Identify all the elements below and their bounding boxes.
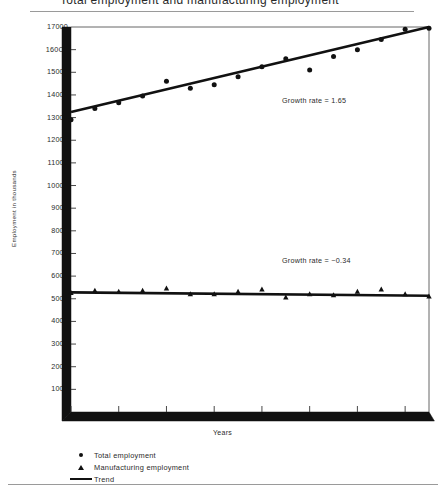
data-point-total-employment xyxy=(116,100,121,105)
plot-area xyxy=(0,0,445,499)
bottom-divider-rule xyxy=(8,484,438,485)
legend-item-label: Total employment xyxy=(94,451,156,460)
legend-item: Manufacturing employment xyxy=(68,461,318,473)
plot-box-outline xyxy=(71,27,429,412)
trend-line xyxy=(71,27,429,112)
x-axis-bar xyxy=(62,412,434,421)
circle-marker-icon xyxy=(68,453,94,457)
data-point-manufacturing-employment xyxy=(379,287,384,292)
data-point-total-employment xyxy=(188,86,193,91)
data-point-manufacturing-employment xyxy=(92,288,97,293)
data-point-total-employment xyxy=(140,94,145,99)
circle-marker-icon-glyph xyxy=(79,453,83,457)
data-point-total-employment xyxy=(236,74,241,79)
trend-line xyxy=(71,292,429,295)
y-axis-bar xyxy=(62,27,71,421)
line-marker-icon xyxy=(68,478,94,481)
data-point-total-employment xyxy=(379,37,384,42)
legend-item: Total employment xyxy=(68,449,318,461)
data-point-total-employment xyxy=(259,64,264,69)
data-point-total-employment xyxy=(92,106,97,111)
data-point-manufacturing-employment xyxy=(140,288,145,293)
triangle-marker-icon-glyph xyxy=(78,465,84,470)
data-point-manufacturing-employment xyxy=(164,285,169,290)
data-point-manufacturing-employment xyxy=(355,289,360,294)
data-point-total-employment xyxy=(403,27,408,32)
annotation-manufacturing-growth-rate: Growth rate = −0.34 xyxy=(282,256,351,265)
data-point-total-employment xyxy=(164,79,169,84)
data-point-manufacturing-employment xyxy=(402,291,407,296)
data-point-total-employment xyxy=(69,117,74,122)
data-point-total-employment xyxy=(331,54,336,59)
legend-item-label: Manufacturing employment xyxy=(94,463,189,472)
line-marker-icon-glyph xyxy=(70,478,92,481)
data-point-manufacturing-employment xyxy=(259,287,264,292)
figure-container: Total employment and manufacturing emplo… xyxy=(0,0,445,499)
data-point-total-employment xyxy=(307,68,312,73)
legend-item-label: Trend xyxy=(94,475,114,484)
data-point-total-employment xyxy=(427,26,432,31)
triangle-marker-icon xyxy=(68,465,94,470)
data-point-total-employment xyxy=(355,47,360,52)
data-point-total-employment xyxy=(283,56,288,61)
data-point-manufacturing-employment xyxy=(235,289,240,294)
annotation-total-growth-rate: Growth rate = 1.65 xyxy=(282,96,346,105)
data-point-total-employment xyxy=(212,82,217,87)
chart-legend: Total employmentManufacturing employment… xyxy=(68,449,318,485)
data-point-manufacturing-employment xyxy=(116,289,121,294)
